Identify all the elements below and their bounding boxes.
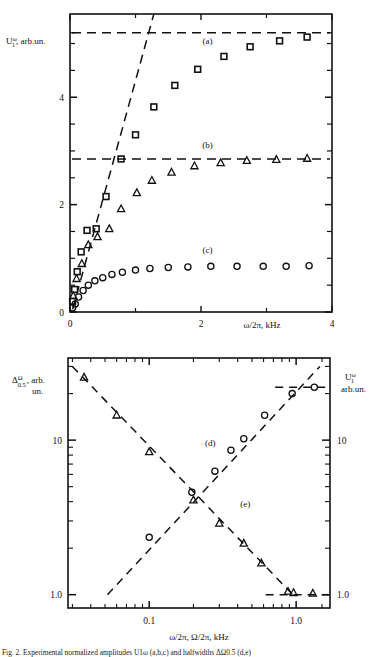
yaxis-title-sub: 1 [12, 41, 15, 48]
data-point-square [221, 54, 227, 60]
data-point-circle [85, 282, 91, 288]
data-point-square [72, 287, 78, 293]
plot-frame-top [70, 14, 332, 312]
xaxis-title-top-panel: ω/2π, kHz [244, 320, 281, 330]
data-point-circle [146, 534, 152, 540]
data-point-triangle [148, 177, 155, 184]
trend-e [72, 366, 296, 598]
figure-container: 024024(a)(b)(c)ω/2π, kHzUω1, arb.un.0.11… [0, 0, 386, 657]
yaxis-left-sup: Ω [18, 374, 23, 381]
data-point-triangle [217, 159, 224, 166]
data-point-circle [311, 384, 317, 390]
ytick-label-top-panel: 4 [59, 93, 64, 103]
data-point-circle [147, 265, 153, 271]
plot-frame-bottom [68, 358, 330, 608]
yaxis-title-rest: , arb.un. [16, 36, 46, 46]
data-point-triangle [106, 225, 113, 232]
data-point-circle [132, 267, 138, 273]
yaxis-title-top-panel: Uω1, arb.un. [6, 35, 46, 48]
data-point-triangle [94, 233, 101, 240]
data-point-circle [212, 468, 218, 474]
xtick-label-bottom-panel: 1.0 [290, 616, 302, 626]
xtick-label-top-panel: 0 [68, 319, 73, 329]
data-point-circle [80, 287, 86, 293]
data-point-circle [260, 263, 266, 269]
xaxis-title-bottom-panel: ω/2π, Ω/2π, kHz [169, 632, 229, 642]
data-point-square [84, 227, 90, 233]
data-point-circle [92, 278, 98, 284]
curve-label-a: (a) [203, 36, 213, 46]
data-point-triangle [78, 260, 85, 267]
yaxis-title-left-bottom-line2: un. [32, 386, 43, 396]
data-point-triangle [168, 168, 175, 175]
yaxis-left-sub: 0.5 [18, 381, 26, 388]
yaxis-title-right-bottom-line2: arb.un. [341, 384, 366, 394]
data-point-circle [241, 436, 247, 442]
data-point-triangle [118, 205, 125, 212]
data-point-square [172, 83, 178, 89]
data-point-triangle [304, 155, 311, 162]
data-point-triangle [290, 589, 297, 596]
data-point-circle [283, 263, 289, 269]
data-point-square [247, 44, 253, 50]
data-point-triangle [243, 157, 250, 164]
ytick-label-left-bottom: 10 [53, 436, 63, 446]
series-a [70, 34, 310, 304]
data-point-circle [119, 269, 125, 275]
series-e [80, 373, 316, 596]
yaxis-right-sub: 1 [351, 377, 354, 384]
data-point-circle [234, 263, 240, 269]
data-point-circle [306, 263, 312, 269]
xtick-label-top-panel: 2 [199, 319, 204, 329]
curve-label-c: (c) [203, 245, 213, 255]
data-point-square [103, 194, 109, 200]
data-point-circle [262, 412, 268, 418]
data-point-square [74, 269, 80, 275]
ytick-label-top-panel: 2 [59, 200, 64, 210]
data-point-square [304, 34, 310, 40]
chart-top-panel: 024024(a)(b)(c)ω/2π, kHzUω1, arb.un. [6, 14, 335, 330]
data-point-square [151, 104, 157, 110]
trend-d [107, 366, 319, 594]
data-point-circle [228, 447, 234, 453]
series-d [146, 384, 317, 540]
data-point-circle [109, 271, 115, 277]
ytick-label-top-panel: 0 [59, 308, 64, 318]
yaxis-title-right-bottom: Uω1 [345, 371, 357, 384]
chart-bottom-panel: 0.11.01.01.01010(d)(e)ω/2π, Ω/2π, kHzΔΩ0… [12, 358, 366, 642]
data-point-triangle [113, 411, 120, 418]
ytick-label-left-bottom: 1.0 [50, 590, 62, 600]
ytick-label-right-bottom: 1.0 [337, 590, 349, 600]
curve-label-b: (b) [202, 140, 213, 150]
series-c [70, 263, 313, 311]
data-point-triangle [73, 275, 80, 282]
xtick-label-bottom-panel: 0.1 [143, 616, 155, 626]
data-point-circle [208, 263, 214, 269]
data-point-circle [165, 264, 171, 270]
data-point-circle [185, 264, 191, 270]
figure-caption: Fig. 2. Experimental normalized amplitud… [0, 648, 386, 657]
ytick-label-right-bottom: 10 [337, 436, 347, 446]
data-point-square [133, 132, 139, 138]
yaxis-left-rest: , arb. [27, 375, 45, 385]
xtick-label-top-panel: 4 [330, 319, 335, 329]
data-point-square [195, 66, 201, 72]
data-point-circle [100, 275, 106, 281]
data-point-triangle [85, 241, 92, 248]
curve-label-e: (e) [240, 499, 250, 509]
curve-label-d: (d) [205, 438, 216, 448]
data-point-triangle [191, 162, 198, 169]
data-point-square [78, 249, 84, 255]
data-point-triangle [273, 156, 280, 163]
data-point-triangle [133, 189, 140, 196]
data-point-square [277, 38, 283, 44]
figure-svg: 024024(a)(b)(c)ω/2π, kHzUω1, arb.un.0.11… [0, 0, 386, 657]
